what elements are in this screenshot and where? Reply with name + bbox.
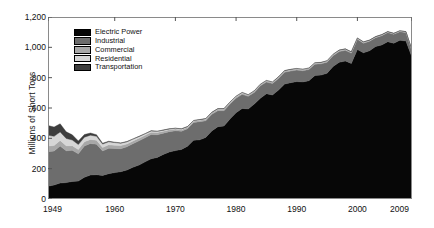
legend-swatch-icon xyxy=(74,46,91,53)
x-tick-label: 2009 xyxy=(390,204,409,214)
legend-label: Commercial xyxy=(95,46,134,54)
chart-legend: Electric PowerIndustrialCommercialReside… xyxy=(74,28,150,72)
legend-swatch-icon xyxy=(74,37,91,44)
x-tick-label: 1990 xyxy=(287,204,306,214)
legend-item[interactable]: Transportation xyxy=(74,63,150,72)
x-tick-label: 1960 xyxy=(105,204,124,214)
x-tick-label: 1980 xyxy=(227,204,246,214)
legend-swatch-icon xyxy=(74,55,91,62)
legend-swatch-icon xyxy=(74,29,91,36)
x-tick-label: 1949 xyxy=(43,204,62,214)
legend-label: Industrial xyxy=(95,37,125,45)
chart-figure: Millions of Short Tons 02004006008001,00… xyxy=(0,0,434,228)
x-tick-label: 2000 xyxy=(348,204,367,214)
legend-label: Transportation xyxy=(95,63,142,71)
legend-swatch-icon xyxy=(74,64,91,71)
legend-item[interactable]: Commercial xyxy=(74,46,150,55)
x-tick-label: 1970 xyxy=(166,204,185,214)
